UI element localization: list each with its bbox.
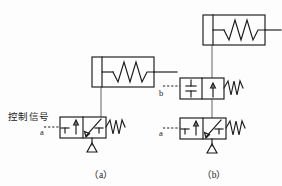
signal-label-a-left: a: [40, 127, 44, 137]
diagram-canvas: 控制信号 a （a）: [0, 0, 282, 186]
cylinder-b-body: [203, 15, 265, 45]
spring-return-cylinder-a: [92, 57, 177, 87]
signal-label-b-mid: b: [159, 88, 163, 98]
valve-b-mid-spring-icon: [224, 81, 243, 95]
control-signal-group-a-right: a: [159, 128, 180, 138]
signal-label-a-right: a: [159, 128, 163, 138]
valve-b-low-spring-icon: [226, 121, 245, 135]
cylinder-a-body: [92, 57, 154, 87]
circuit-a: 控制信号 a （a）: [8, 57, 177, 180]
spring-return-cylinder-b: [203, 15, 281, 45]
control-signal-group-b: b: [159, 86, 180, 98]
control-signal-label: 控制信号: [8, 111, 50, 122]
caption-a: （a）: [89, 169, 113, 180]
two-way-valve-b: [180, 78, 243, 99]
control-signal-group-a: 控制信号 a: [8, 111, 60, 137]
cylinder-b-spring-icon: [224, 20, 265, 40]
cylinder-a-spring-icon: [113, 62, 154, 82]
valve-a-spring-icon: [106, 120, 125, 134]
circuit-b: b a: [159, 15, 281, 180]
directional-valve-a: [60, 117, 125, 152]
directional-valve-b: [180, 118, 245, 153]
caption-b: （b）: [202, 169, 227, 180]
pneumatic-diagram: 控制信号 a （a）: [0, 0, 282, 186]
